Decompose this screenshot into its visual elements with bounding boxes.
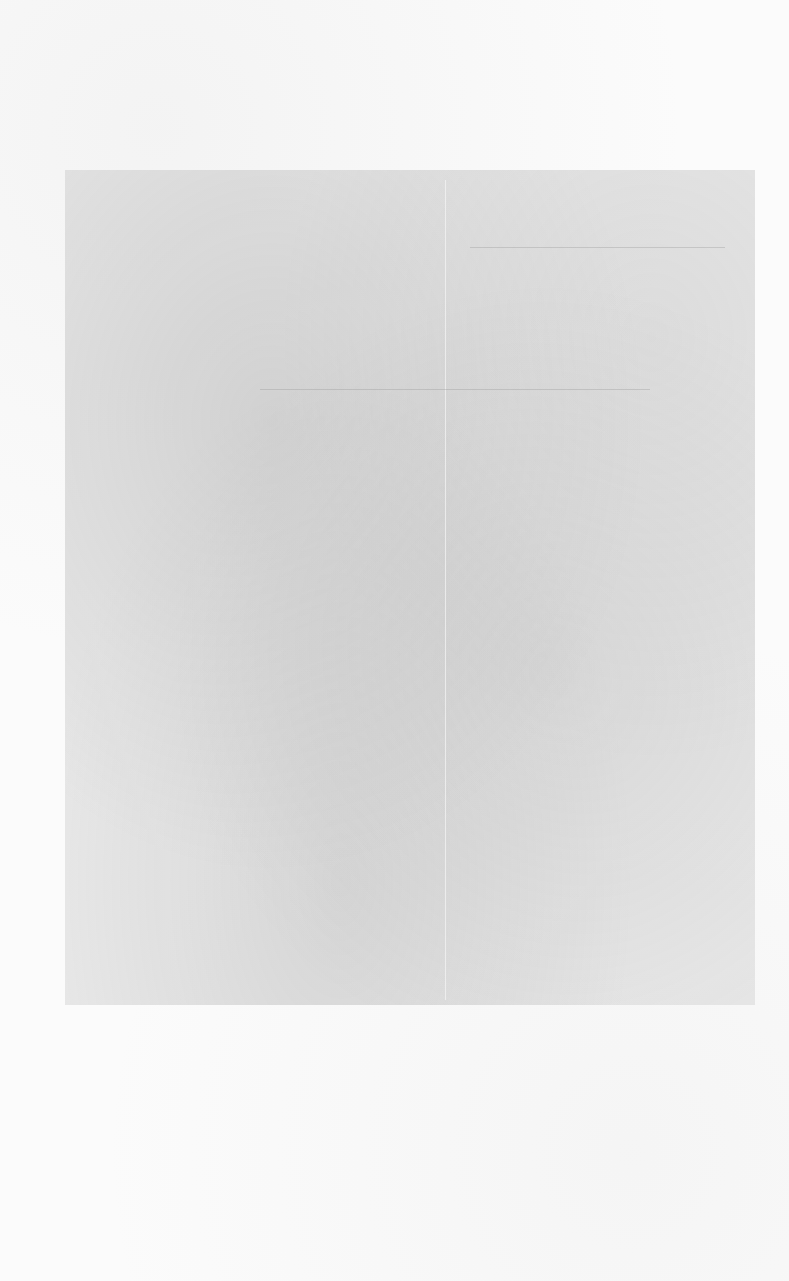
scanned-gray-region — [65, 170, 755, 1005]
page-fold-line — [445, 180, 446, 1000]
faint-rule-line — [470, 247, 725, 248]
document-page — [0, 0, 789, 1281]
faint-rule-line — [260, 389, 650, 390]
